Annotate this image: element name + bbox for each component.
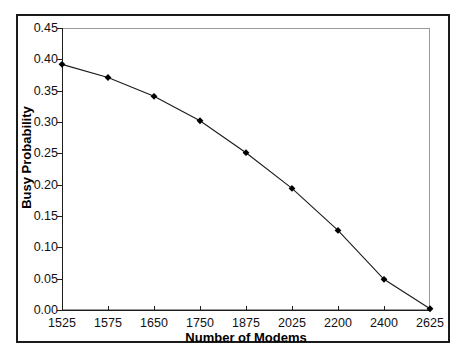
data-point-marker	[105, 74, 112, 81]
y-axis-title: Busy Probability	[19, 58, 34, 258]
chart-figure: 0.000.050.100.150.200.250.300.350.400.45…	[0, 0, 464, 356]
data-series-layer	[0, 0, 464, 356]
series-markers	[59, 61, 434, 312]
data-point-marker	[197, 117, 204, 124]
series-line	[62, 64, 430, 308]
data-point-marker	[427, 305, 434, 312]
x-axis-title: Number of Modems	[62, 330, 430, 345]
data-point-marker	[59, 61, 66, 68]
data-point-marker	[151, 93, 158, 100]
